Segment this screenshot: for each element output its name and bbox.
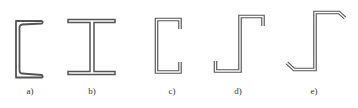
label-e: e) [311,86,318,96]
label-a: a) [27,86,34,96]
profile-a-channel [16,21,43,78]
steel-section-figure: a) b) c) d) e) [0,0,358,108]
label-c: c) [169,86,176,96]
profile-c-lipped-channel [157,20,181,73]
label-d: d) [234,86,242,96]
label-b: b) [88,86,96,96]
profile-b-i-beam [68,20,115,75]
profile-e-angled-z [287,13,345,70]
profile-d-lipped-z [216,17,264,72]
